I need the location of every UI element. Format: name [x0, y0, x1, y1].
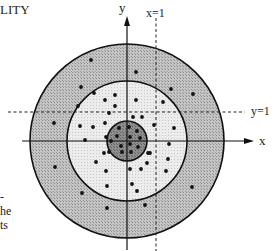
caption-fragment-1: - [0, 190, 4, 204]
y-axis-arrow-icon [124, 16, 130, 26]
point-outer-ring [105, 206, 109, 210]
point-outer-ring [80, 191, 84, 195]
x-axis-label: x [259, 133, 266, 148]
point-middle-ring [94, 160, 98, 164]
point-middle-ring [83, 138, 87, 142]
point-middle-ring [128, 167, 132, 171]
point-middle-ring [104, 169, 108, 173]
point-inner-disk [107, 150, 111, 154]
point-inner-disk [128, 142, 132, 146]
point-middle-ring [152, 123, 156, 127]
concentric-target-diagram: LITY y x=1 y=1 x - he ts [0, 0, 276, 251]
point-middle-ring [131, 115, 135, 119]
point-middle-ring [148, 151, 152, 155]
point-outer-ring [134, 70, 138, 74]
point-middle-ring [164, 169, 168, 173]
page-title-fragment: LITY [0, 2, 30, 17]
y1-line-label: y=1 [251, 104, 270, 118]
point-inner-disk [115, 134, 119, 138]
point-middle-ring [103, 121, 107, 125]
point-inner-disk [136, 145, 140, 149]
point-outer-ring [190, 185, 194, 189]
point-middle-ring [167, 142, 171, 146]
point-outer-ring [89, 58, 93, 62]
point-middle-ring [103, 98, 107, 102]
point-middle-ring [135, 189, 139, 193]
point-middle-ring [134, 98, 138, 102]
point-inner-disk [109, 139, 113, 143]
point-middle-ring [161, 100, 165, 104]
caption-fragment-2: he [0, 204, 11, 218]
point-inner-disk [129, 150, 133, 154]
point-middle-ring [76, 104, 80, 108]
point-middle-ring [145, 161, 149, 165]
point-middle-ring [166, 157, 170, 161]
point-outer-ring [169, 87, 173, 91]
point-inner-disk [117, 126, 121, 130]
x-axis-arrow-icon [244, 138, 254, 144]
point-inner-disk [135, 129, 139, 133]
point-middle-ring [105, 184, 109, 188]
point-outer-ring [79, 85, 83, 89]
point-middle-ring [92, 91, 96, 95]
point-inner-disk [138, 136, 142, 140]
point-middle-ring [104, 135, 108, 139]
caption-fragment-3: ts [0, 218, 8, 232]
y-axis-label: y [119, 0, 126, 15]
point-middle-ring [139, 167, 143, 171]
point-middle-ring [113, 93, 117, 97]
point-inner-disk [127, 125, 131, 129]
point-middle-ring [140, 115, 144, 119]
point-outer-ring [53, 165, 57, 169]
point-outer-ring [143, 203, 147, 207]
point-middle-ring [113, 104, 117, 108]
point-middle-ring [107, 111, 111, 115]
x1-line-label: x=1 [146, 6, 165, 20]
point-inner-disk [120, 150, 124, 154]
point-middle-ring [130, 182, 134, 186]
point-inner-disk [119, 144, 123, 148]
point-outer-ring [191, 92, 195, 96]
point-outer-ring [52, 121, 56, 125]
point-middle-ring [172, 126, 176, 130]
point-middle-ring [102, 151, 106, 155]
point-middle-ring [78, 124, 82, 128]
point-middle-ring [91, 125, 95, 129]
point-inner-disk [128, 135, 132, 139]
